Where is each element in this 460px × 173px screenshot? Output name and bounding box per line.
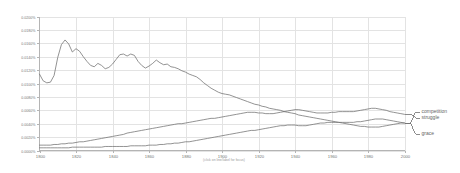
x-axis-tick-label: 2000 — [401, 154, 411, 159]
y-axis-tick-label: 0.0080% — [21, 96, 36, 100]
chart-canvas[interactable]: 0.0000%0.0020%0.0040%0.0060%0.0080%0.010… — [0, 0, 460, 173]
y-axis-tick-labels: 0.0000%0.0020%0.0040%0.0060%0.0080%0.010… — [21, 16, 39, 154]
y-axis-tick-label: 0.0060% — [21, 109, 36, 113]
y-axis-tick-label: 0.0100% — [21, 83, 36, 87]
y-axis-tick-label: 0.0040% — [21, 123, 36, 127]
legend-connector-grace — [405, 123, 420, 134]
y-axis-tick-label: 0.0120% — [21, 69, 36, 73]
x-axis-tick-label: 1940 — [291, 154, 301, 159]
y-axis-tick-label: 0.0020% — [21, 136, 36, 140]
x-axis-tick-label: 1800 — [36, 154, 46, 159]
x-axis-tick-label: 1920 — [255, 154, 265, 159]
y-axis-tick-label: 0.0140% — [21, 56, 36, 60]
legend-item-struggle[interactable]: struggle — [405, 114, 440, 120]
grid-layer — [40, 17, 406, 152]
x-axis-tick-label: 1880 — [182, 154, 192, 159]
y-axis-tick-label: 0.0000% — [21, 150, 36, 154]
ngram-chart: 0.0000%0.0020%0.0040%0.0060%0.0080%0.010… — [0, 0, 460, 173]
x-axis-tick-label: 1980 — [364, 154, 374, 159]
x-axis-tick-label: 1860 — [145, 154, 155, 159]
legend-label-grace[interactable]: grace — [422, 130, 435, 136]
x-axis-tick-label: 1840 — [109, 154, 119, 159]
legend-connector-struggle — [405, 114, 420, 118]
legend-connector-competition — [405, 112, 420, 123]
y-axis-tick-label: 0.0160% — [21, 42, 36, 46]
chart-legend[interactable]: competitionstrugglegrace — [405, 108, 448, 136]
y-axis-tick-label: 0.0180% — [21, 29, 36, 33]
x-axis-tick-label: 1820 — [72, 154, 82, 159]
legend-item-grace[interactable]: grace — [405, 123, 435, 136]
chart-footnote: (click on line/label for focus) — [203, 158, 245, 162]
legend-label-struggle[interactable]: struggle — [422, 114, 440, 120]
y-axis-tick-label: 0.0200% — [21, 16, 36, 20]
x-axis-tick-label: 1960 — [328, 154, 338, 159]
